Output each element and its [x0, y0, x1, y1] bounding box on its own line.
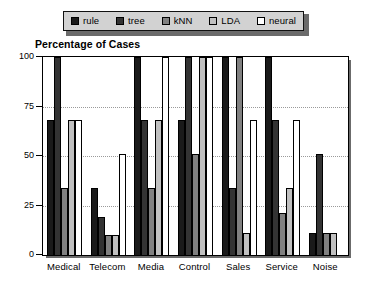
bar-telecom-rule — [91, 188, 98, 255]
chart-legend: rule tree kNN LDA neural — [63, 11, 306, 33]
legend-box: rule tree kNN LDA neural — [63, 11, 304, 31]
legend-item-lda: LDA — [209, 16, 240, 26]
bar-sales-knn — [236, 57, 243, 255]
x-axis-labels: MedicalTelecomMediaControlSalesServiceNo… — [42, 261, 347, 272]
legend-label-neural: neural — [269, 16, 296, 26]
bar-control-neural — [206, 57, 213, 255]
bar-media-lda — [155, 120, 162, 255]
bar-control-tree — [185, 57, 192, 255]
y-axis-ticks — [0, 56, 42, 254]
legend-item-tree: tree — [116, 16, 145, 26]
bar-group-control — [174, 57, 218, 255]
bar-sales-neural — [250, 120, 257, 255]
bar-telecom-neural — [119, 154, 126, 255]
x-tick-label: Service — [260, 261, 304, 272]
legend-item-rule: rule — [71, 16, 99, 26]
legend-swatch-neural — [257, 17, 265, 25]
bar-group-service — [261, 57, 305, 255]
bar-group-sales — [217, 57, 261, 255]
legend-swatch-knn — [162, 17, 170, 25]
x-tick-label: Media — [129, 261, 173, 272]
x-tick-label: Sales — [216, 261, 260, 272]
bar-sales-tree — [229, 188, 236, 255]
legend-item-neural: neural — [257, 16, 296, 26]
bar-medical-tree — [54, 57, 61, 255]
bar-service-rule — [265, 57, 272, 255]
legend-swatch-lda — [209, 17, 217, 25]
bar-group-telecom — [87, 57, 131, 255]
chart-title: Percentage of Cases — [35, 38, 140, 50]
legend-item-knn: kNN — [162, 16, 193, 26]
x-tick-label: Control — [173, 261, 217, 272]
legend-swatch-tree — [116, 17, 124, 25]
bar-group-media — [130, 57, 174, 255]
bar-media-tree — [141, 120, 148, 255]
legend-label-lda: LDA — [221, 16, 240, 26]
x-tick-label: Telecom — [86, 261, 130, 272]
x-tick-label: Noise — [303, 261, 347, 272]
bar-noise-tree — [316, 154, 323, 255]
bar-control-lda — [199, 57, 206, 255]
bar-service-knn — [279, 213, 286, 255]
legend-label-knn: kNN — [174, 16, 193, 26]
bar-sales-rule — [222, 57, 229, 255]
bar-telecom-knn — [105, 235, 112, 255]
bar-medical-knn — [61, 188, 68, 255]
bar-service-tree — [272, 120, 279, 255]
legend-label-tree: tree — [128, 16, 145, 26]
bar-telecom-tree — [98, 217, 105, 255]
bar-medical-neural — [75, 120, 82, 255]
bar-telecom-lda — [112, 235, 119, 255]
bar-medical-rule — [47, 120, 54, 255]
bar-sales-lda — [243, 233, 250, 255]
bar-groups — [43, 57, 348, 255]
bar-service-neural — [293, 120, 300, 255]
plot-inner — [43, 57, 348, 255]
bar-noise-rule — [309, 233, 316, 255]
bar-media-knn — [148, 188, 155, 255]
bar-media-rule — [134, 57, 141, 255]
bar-control-knn — [192, 154, 199, 255]
plot-area — [42, 56, 349, 256]
bar-service-lda — [286, 188, 293, 255]
bar-group-noise — [304, 57, 348, 255]
bar-noise-knn — [323, 233, 330, 255]
bar-group-medical — [43, 57, 87, 255]
x-tick-label: Medical — [42, 261, 86, 272]
legend-label-rule: rule — [83, 16, 99, 26]
bar-media-neural — [162, 57, 169, 255]
legend-swatch-rule — [71, 17, 79, 25]
bar-noise-lda — [330, 233, 337, 255]
bar-control-rule — [178, 120, 185, 255]
bar-medical-lda — [68, 120, 75, 255]
